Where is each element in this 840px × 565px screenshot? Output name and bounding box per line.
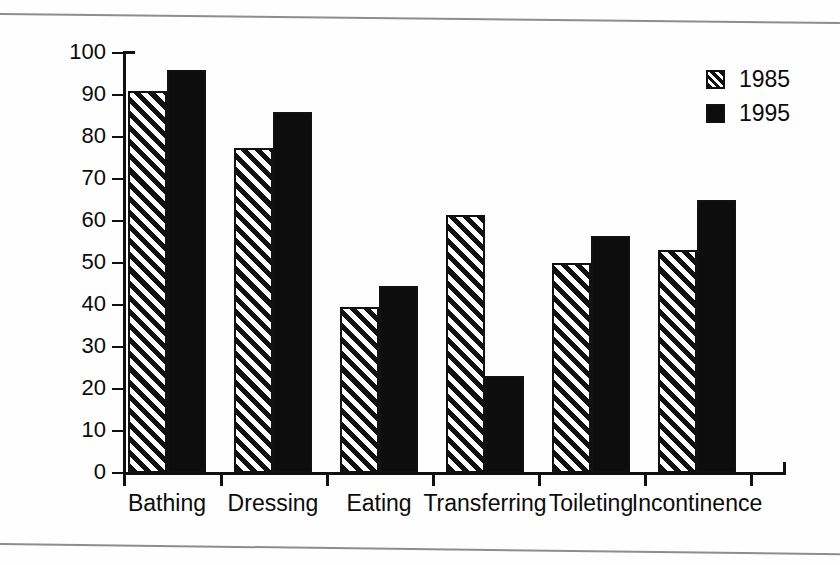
y-tick-90 (112, 94, 123, 96)
bar-bathing-1985 (128, 91, 167, 473)
bottom-divider-rule (0, 543, 840, 555)
y-tick-label-60: 60 (46, 209, 106, 231)
y-tick-label-0: 0 (46, 461, 106, 483)
y-tick-label-100: 100 (46, 41, 106, 63)
y-tick-100 (112, 52, 123, 54)
legend-label-1985: 1985 (739, 68, 790, 91)
x-label-incontinence: Incontinence (607, 492, 787, 515)
y-tick-50 (112, 262, 123, 264)
y-tick-80 (112, 136, 123, 138)
y-tick-60 (112, 220, 123, 222)
hatch-swatch (706, 70, 725, 89)
y-tick-label-20: 20 (46, 377, 106, 399)
y-tick-label-10: 10 (46, 419, 106, 441)
bar-eating-1995 (379, 286, 418, 473)
bar-incontinence-1995 (697, 200, 736, 473)
bar-transferring-1985 (446, 215, 485, 473)
y-tick-20 (112, 388, 123, 390)
bar-toileting-1995 (591, 236, 630, 473)
x-tick-origin (123, 473, 126, 486)
x-tick-5 (750, 473, 753, 486)
y-tick-label-90: 90 (46, 83, 106, 105)
y-tick-label-40: 40 (46, 293, 106, 315)
bar-toileting-1985 (552, 263, 591, 473)
x-tick-0 (220, 473, 223, 486)
bar-dressing-1995 (273, 112, 312, 473)
y-tick-40 (112, 304, 123, 306)
plot-area: Percent of residents (123, 53, 785, 473)
top-divider-rule (0, 13, 840, 24)
x-tick-2 (432, 473, 435, 486)
legend-item-1995: 1995 (706, 96, 826, 130)
y-tick-label-50: 50 (46, 251, 106, 273)
bar-eating-1985 (340, 307, 379, 473)
bar-transferring-1995 (485, 376, 524, 473)
bar-dressing-1985 (234, 148, 273, 474)
solid-swatch (706, 104, 725, 123)
y-tick-10 (112, 430, 123, 432)
y-tick-label-30: 30 (46, 335, 106, 357)
y-tick-30 (112, 346, 123, 348)
bar-bathing-1995 (167, 70, 206, 473)
x-tick-1 (326, 473, 329, 486)
chart-page: 0102030405060708090100 Percent of reside… (0, 0, 840, 565)
x-tick-3 (538, 473, 541, 486)
y-tick-70 (112, 178, 123, 180)
bar-incontinence-1985 (658, 250, 697, 473)
legend-label-1995: 1995 (739, 102, 790, 125)
y-tick-label-70: 70 (46, 167, 106, 189)
y-tick-0 (112, 472, 123, 474)
x-tick-4 (644, 473, 647, 486)
legend-item-1985: 1985 (706, 62, 826, 96)
y-tick-label-80: 80 (46, 125, 106, 147)
y-axis-tick-labels: 0102030405060708090100 (38, 0, 106, 565)
chart-legend: 19851995 (706, 62, 826, 130)
